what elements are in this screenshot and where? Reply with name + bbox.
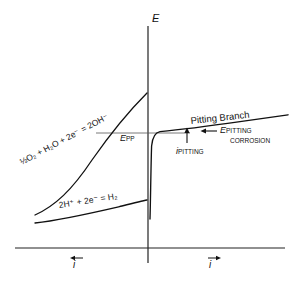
x-axis-label-anodic: i [209,259,211,270]
polarization-diagram: E ½O₂ + H₂O + 2e⁻ = 2OH⁻ 2H⁺ + 2e⁻ = H₂ … [0,0,296,288]
e-pitting-line1: EPITTING [220,125,270,136]
y-axis-label: E [152,12,159,24]
e-pitting-subscript: PITTING [226,127,252,134]
cathodic-current-arrow-icon [70,256,83,261]
x-axis-label-cathodic: i [73,259,75,270]
epp-label: EPP [120,133,135,143]
i-pitting-label: iPITTING [176,146,204,156]
i-pitting-arrow-icon [184,128,189,144]
e-pitting-corrosion-label: EPITTING CORROSION [220,125,270,146]
e-pitting-arrow-icon [201,128,218,133]
i-pitting-subscript: PITTING [178,148,204,155]
epp-subscript: PP [126,135,135,142]
e-pitting-line2: CORROSION [230,136,270,146]
